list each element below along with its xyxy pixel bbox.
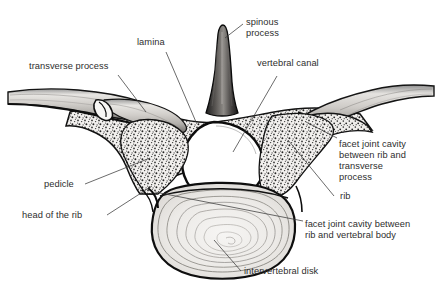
- label-spinous-process-line1: spinous: [246, 17, 278, 28]
- label-facet-rib-transverse-line2: between rib and: [339, 150, 406, 161]
- leader-head-of-rib: [107, 186, 152, 215]
- label-lamina: lamina: [137, 37, 165, 48]
- label-facet-rib-body-line2: rib and vertebral body: [305, 230, 396, 241]
- label-pedicle: pedicle: [44, 179, 74, 190]
- label-facet-rib-transverse-line1: facet joint cavity: [339, 139, 406, 150]
- label-transverse-process: transverse process: [29, 61, 108, 72]
- anatomical-figure: transverse process lamina spinous proces…: [0, 0, 442, 299]
- label-spinous-process-line2: process: [246, 28, 279, 39]
- label-facet-rib-body-line1: facet joint cavity between: [305, 219, 410, 230]
- label-intervertebral-disk: intervertebral disk: [244, 266, 318, 277]
- label-facet-rib-transverse-line4: process: [339, 172, 372, 183]
- label-rib: rib: [340, 191, 350, 202]
- label-head-of-the-rib: head of the rib: [22, 210, 82, 221]
- label-facet-rib-transverse-line3: transverse: [339, 161, 383, 172]
- label-vertebral-canal: vertebral canal: [257, 58, 319, 69]
